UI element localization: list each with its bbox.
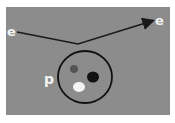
quark-white-dot: [73, 82, 85, 92]
incoming-electron-label: e: [7, 24, 16, 39]
proton-label: p: [44, 71, 54, 87]
quark-black-dot: [87, 72, 99, 83]
quark-gray-dot: [70, 65, 78, 73]
proton-circle: [58, 51, 112, 103]
electron-path-arrow: [17, 21, 152, 44]
scattering-diagram: e e p: [0, 0, 175, 123]
outgoing-electron-label: e: [155, 13, 164, 28]
